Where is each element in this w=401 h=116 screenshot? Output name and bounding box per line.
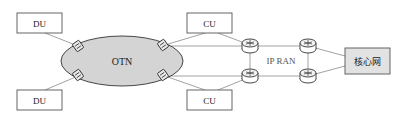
du-top-label: DU xyxy=(33,19,46,29)
cu-top-node: CU xyxy=(187,13,232,33)
router-icon xyxy=(242,39,258,53)
ipran-label: IP RAN xyxy=(267,56,296,66)
link-du-bottom-otn xyxy=(45,76,78,90)
cu-top-label: CU xyxy=(203,19,216,29)
router-icon xyxy=(242,69,258,83)
network-diagram: OTN DU DU CU CU IP RAN 核心网 xyxy=(0,0,401,116)
router-icon xyxy=(300,39,316,53)
du-bottom-label: DU xyxy=(33,96,46,106)
cu-bottom-node: CU xyxy=(187,90,232,110)
link-otn-cu-top xyxy=(165,33,205,45)
du-top-node: DU xyxy=(17,13,62,33)
otn-label: OTN xyxy=(112,56,133,67)
link-otn-cu-bottom xyxy=(165,76,205,90)
core-network-node: 核心网 xyxy=(345,48,390,74)
core-network-label: 核心网 xyxy=(354,56,381,67)
router-icon xyxy=(300,69,316,83)
cu-bottom-label: CU xyxy=(203,96,216,106)
du-bottom-node: DU xyxy=(17,90,62,110)
